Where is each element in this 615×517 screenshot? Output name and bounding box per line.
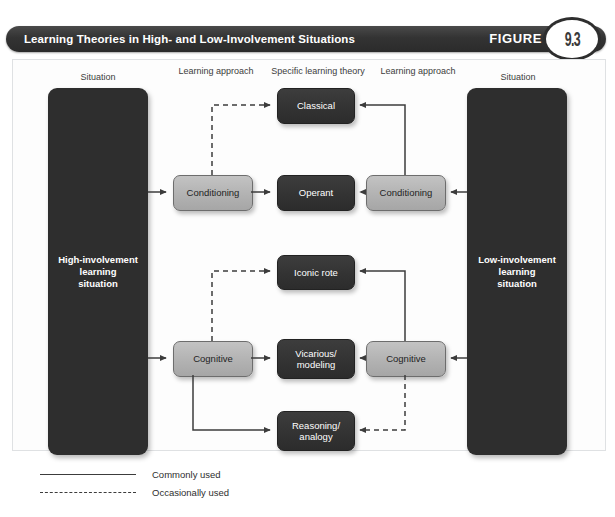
node-label-operant: Operant xyxy=(299,187,333,199)
column-header-specific-learning-theory: Specific learning theory xyxy=(268,66,368,77)
figure-word-label: FIGURE xyxy=(489,26,542,52)
situation-box-low-involvement[interactable]: Low-involvement learning situation xyxy=(467,88,567,455)
column-header-learning-approach-left: Learning approach xyxy=(176,66,256,77)
column-header-situation-left: Situation xyxy=(48,72,148,83)
node-label-high-cognitive: Cognitive xyxy=(193,353,233,365)
legend: Commonly used Occasionally used xyxy=(40,466,340,502)
node-label-reasoning-analogy: Reasoning/ analogy xyxy=(292,420,340,443)
node-high-conditioning[interactable]: Conditioning xyxy=(173,175,253,211)
node-high-cognitive[interactable]: Cognitive xyxy=(173,341,253,377)
node-label-vicarious-modeling: Vicarious/ modeling xyxy=(295,348,337,371)
node-label-classical: Classical xyxy=(297,100,335,112)
situation-box-high-involvement[interactable]: High-involvement learning situation xyxy=(48,88,148,455)
legend-label-occasionally-used: Occasionally used xyxy=(152,484,229,501)
situation-label-high-involvement: High-involvement learning situation xyxy=(58,254,138,290)
legend-swatch-solid xyxy=(40,474,136,475)
figure-number: 9.3 xyxy=(564,29,579,49)
node-label-low-conditioning: Conditioning xyxy=(380,187,433,199)
node-reasoning-analogy[interactable]: Reasoning/ analogy xyxy=(277,411,355,451)
node-label-high-conditioning: Conditioning xyxy=(187,187,240,199)
node-iconic-rote[interactable]: Iconic rote xyxy=(277,255,355,290)
column-header-situation-right: Situation xyxy=(468,72,568,83)
legend-swatch-dashed xyxy=(40,492,136,493)
node-low-conditioning[interactable]: Conditioning xyxy=(366,175,446,211)
legend-row-occasionally-used: Occasionally used xyxy=(40,484,340,502)
figure-title: Learning Theories in High- and Low-Invol… xyxy=(24,26,355,52)
running-head xyxy=(0,1,615,10)
node-low-cognitive[interactable]: Cognitive xyxy=(366,341,446,377)
legend-row-commonly-used: Commonly used xyxy=(40,466,340,484)
figure-page: Learning Theories in High- and Low-Invol… xyxy=(0,0,615,517)
node-label-iconic-rote: Iconic rote xyxy=(294,267,338,279)
figure-number-badge: 9.3 xyxy=(546,20,598,58)
node-operant[interactable]: Operant xyxy=(277,175,355,211)
column-header-learning-approach-right: Learning approach xyxy=(378,66,458,77)
situation-label-low-involvement: Low-involvement learning situation xyxy=(478,254,556,290)
node-label-low-cognitive: Cognitive xyxy=(386,353,426,365)
node-classical[interactable]: Classical xyxy=(277,88,355,124)
node-vicarious-modeling[interactable]: Vicarious/ modeling xyxy=(277,339,355,379)
figure-header-bar: Learning Theories in High- and Low-Invol… xyxy=(6,26,606,52)
legend-label-commonly-used: Commonly used xyxy=(152,466,221,483)
